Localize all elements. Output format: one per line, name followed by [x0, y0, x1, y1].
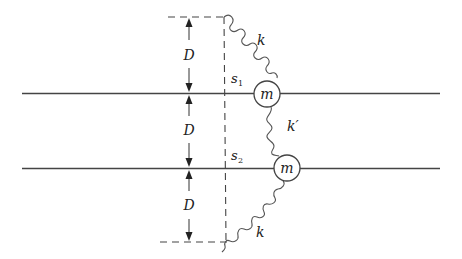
svg-text:1: 1 — [238, 79, 243, 88]
vertical-reference-dashed — [224, 17, 226, 242]
spring-middle-label: k′ — [287, 118, 299, 134]
displacement-label-2: s 2 — [231, 148, 243, 165]
svg-text:s: s — [231, 148, 238, 163]
spring-top-icon — [224, 15, 277, 78]
svg-text:2: 2 — [238, 156, 243, 165]
mass-1-label: m — [260, 86, 273, 102]
spring-bottom-icon — [222, 181, 284, 252]
diagram-canvas: m m D D D k k′ k s 1 s 2 — [0, 0, 462, 259]
dimension-label-middle: D — [182, 122, 194, 138]
mass-2: m — [274, 155, 300, 181]
spring-middle-icon — [267, 107, 279, 156]
dimension-label-bottom: D — [182, 197, 194, 213]
mass-2-label: m — [280, 160, 293, 176]
svg-text:s: s — [231, 71, 238, 86]
mass-1: m — [254, 81, 280, 107]
displacement-label-1: s 1 — [231, 71, 243, 88]
spring-bottom-label: k — [256, 224, 264, 240]
spring-top-label: k — [257, 32, 265, 48]
dimension-label-top: D — [182, 47, 194, 63]
